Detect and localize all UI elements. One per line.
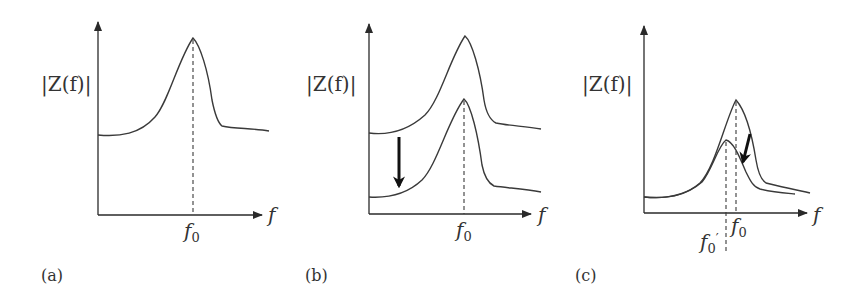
f0-tick-label: f0 [182,219,200,245]
damped-curve [644,140,795,198]
f0-prime-tick-label: f0′ [698,230,719,256]
panel-a: |Z(f)| f f0 (a) [41,22,279,285]
x-axis-label: f [811,203,824,227]
f0-tick-label: f0 [454,218,472,244]
panel-label-c: (c) [575,266,596,285]
shifted-curve [369,99,541,197]
original-curve [644,100,810,198]
original-curve [369,36,541,134]
x-axis-label: f [266,203,279,227]
panel-label-b: (b) [305,266,328,285]
impedance-curve [98,38,269,136]
f0-tick-label: f0 [729,214,747,240]
impedance-figure: |Z(f)| f f0 (a) |Z(f)| f f0 (b) |Z(f)| f [0,0,855,299]
y-axis-label: |Z(f)| [582,72,632,97]
x-axis-label: f [536,203,549,227]
panel-label-a: (a) [41,266,63,285]
peak-shift-arrow-icon [743,134,750,162]
y-axis-label: |Z(f)| [41,72,91,97]
y-axis-label: |Z(f)| [306,72,356,97]
panel-b: |Z(f)| f f0 (b) [305,24,549,285]
panel-c: |Z(f)| f f0 f0′ (c) [575,26,824,285]
